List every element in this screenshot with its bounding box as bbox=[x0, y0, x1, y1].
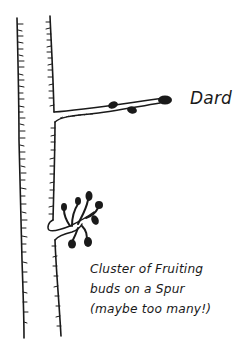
spur-bud bbox=[61, 203, 67, 211]
dard-shoot-outline bbox=[54, 98, 165, 122]
dard-shoot bbox=[54, 96, 172, 123]
right-bark-edge-lower bbox=[55, 240, 61, 336]
right-bark-edge-middle bbox=[53, 122, 55, 220]
dard-bud-upper bbox=[107, 100, 119, 110]
spur-bud bbox=[75, 197, 81, 205]
caption-line-2: buds on a Spur bbox=[90, 279, 211, 299]
spur-bud bbox=[95, 201, 103, 209]
caption-line-1: Cluster of Fruiting bbox=[90, 259, 211, 279]
dard-label: Dard bbox=[190, 88, 232, 108]
spur-bud bbox=[84, 237, 92, 247]
spur-bud bbox=[86, 191, 93, 201]
fruiting-spur bbox=[48, 191, 103, 249]
right-bark-hatching bbox=[46, 22, 61, 326]
left-bark-edge bbox=[17, 18, 24, 338]
caption-line-3: (maybe too many!) bbox=[90, 299, 211, 319]
dard-terminal-bud bbox=[158, 96, 172, 105]
spur-bud bbox=[68, 240, 76, 249]
spur-caption: Cluster of Fruiting buds on a Spur (mayb… bbox=[90, 259, 211, 319]
